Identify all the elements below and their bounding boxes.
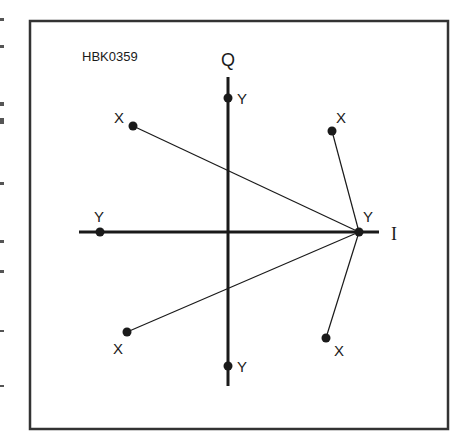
edge-artifact <box>0 270 4 273</box>
edge-artifact <box>0 182 4 185</box>
y-top-label: Y <box>237 90 247 107</box>
i-axis-label: I <box>391 224 397 244</box>
x-lower-left-label: X <box>113 340 123 357</box>
edge-artifact <box>0 18 4 21</box>
x-upper-left-dot <box>129 122 138 131</box>
edge-artifact <box>0 330 4 332</box>
connection-line-upper-right <box>332 131 359 232</box>
connection-line-lower-left <box>127 232 359 332</box>
edge-artifact <box>0 118 4 124</box>
x-lower-right-label: X <box>334 342 344 359</box>
y-right-label: Y <box>363 208 373 225</box>
y-bottom-label: Y <box>237 358 247 375</box>
diagram-id-label: HBK0359 <box>82 49 138 64</box>
connection-line-lower-right <box>326 232 359 338</box>
x-lower-right-dot <box>322 334 331 343</box>
x-upper-right-label: X <box>336 109 346 126</box>
x-upper-right-dot <box>328 127 337 136</box>
x-lower-left-dot <box>123 328 132 337</box>
y-bottom-dot <box>224 362 233 371</box>
edge-artifact <box>0 240 4 243</box>
y-top-dot <box>224 94 233 103</box>
connection-line-upper-left <box>133 126 359 232</box>
x-upper-left-label: X <box>114 109 124 126</box>
constellation-diagram: HBK0359 Q I Y Y Y Y X X X X <box>0 0 468 448</box>
edge-artifact <box>0 385 4 387</box>
edge-artifact <box>0 102 4 106</box>
y-right-dot <box>355 228 364 237</box>
edge-artifact <box>0 45 4 48</box>
y-left-label: Y <box>94 208 104 225</box>
q-axis-label: Q <box>221 50 235 70</box>
y-left-dot <box>96 228 105 237</box>
